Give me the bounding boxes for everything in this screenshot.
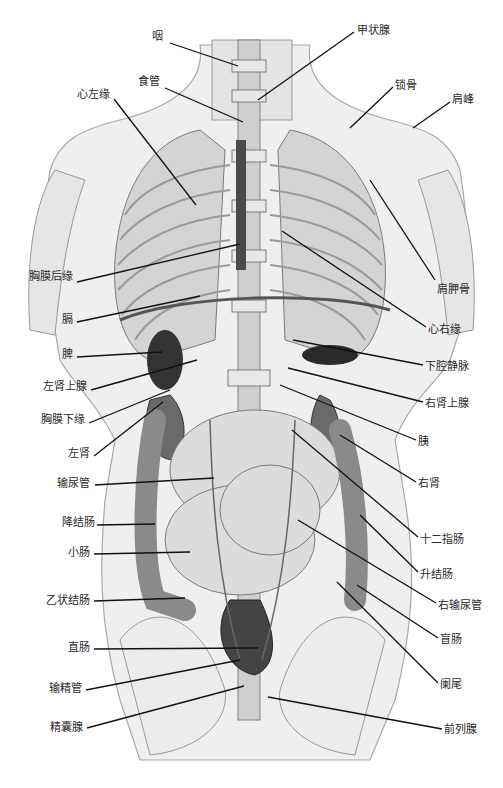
label-right-10: 升结肠 <box>420 569 453 581</box>
label-right-13: 阑尾 <box>440 679 462 691</box>
label-right-2: 肩峰 <box>452 94 474 106</box>
label-left-7: 胸膜下缘 <box>41 414 85 426</box>
spleen <box>147 330 183 390</box>
label-left-2: 心左缘 <box>77 89 110 101</box>
label-right-9: 十二指肠 <box>420 534 464 546</box>
right-adrenal <box>302 345 358 365</box>
label-left-8: 左肾 <box>68 448 90 460</box>
label-right-8: 右肾 <box>418 478 440 490</box>
label-left-0: 咽 <box>152 31 163 43</box>
label-left-3: 胸膜后缘 <box>29 271 73 283</box>
label-left-13: 直肠 <box>68 642 90 654</box>
label-right-6: 右肾上腺 <box>425 398 469 410</box>
anatomy-figure: 咽食管心左缘胸膜后缘膈脾左肾上腺胸膜下缘左肾输尿管降结肠小肠乙状结肠直肠输精管精… <box>0 0 503 788</box>
label-right-5: 下腔静脉 <box>425 361 469 373</box>
label-left-15: 精囊腺 <box>50 722 83 734</box>
label-right-11: 右输尿管 <box>438 600 482 612</box>
label-right-3: 肩胛骨 <box>437 284 470 296</box>
label-left-11: 小肠 <box>68 547 90 559</box>
leader-line <box>413 102 450 128</box>
label-left-9: 输尿管 <box>57 478 90 490</box>
label-right-12: 盲肠 <box>440 634 462 646</box>
label-left-14: 输精管 <box>49 683 82 695</box>
body-illustration <box>0 0 503 788</box>
label-left-10: 降结肠 <box>62 517 95 529</box>
label-right-0: 甲状腺 <box>357 25 390 37</box>
label-right-4: 心右缘 <box>428 324 461 336</box>
label-left-6: 左肾上腺 <box>43 381 87 393</box>
label-left-4: 膈 <box>62 314 73 326</box>
esophagus <box>236 140 246 270</box>
label-left-12: 乙状结肠 <box>46 595 90 607</box>
label-left-1: 食管 <box>138 76 160 88</box>
label-right-7: 胰 <box>418 436 429 448</box>
label-right-1: 锁骨 <box>395 80 417 92</box>
label-left-5: 脾 <box>62 349 73 361</box>
label-right-14: 前列腺 <box>444 724 477 736</box>
